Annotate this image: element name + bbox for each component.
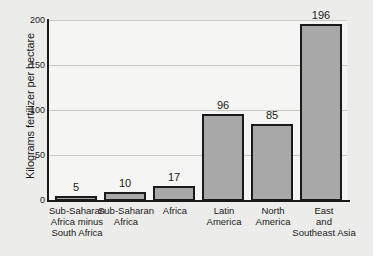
y-tick-200: 200 [15,16,45,25]
bar-value-1: 10 [104,178,146,189]
bar-group-0: 5 [55,20,97,201]
bar-value-5: 196 [300,10,342,21]
x-label-5: East and Southeast Asia [282,205,366,238]
bar-group-1: 10 [104,20,146,201]
bar-group-5: 196 [300,20,342,201]
bar-north-america[interactable] [251,124,293,201]
bar-chart: Kilograms fertilizer per hectare 200 150… [0,0,373,256]
bar-group-3: 96 [202,20,244,201]
y-tick-150: 150 [15,61,45,70]
bar-value-4: 85 [251,110,293,121]
x-axis-line [47,200,350,202]
bar-east-and-southeast-asia[interactable] [300,24,342,201]
plot-area: 5 10 17 96 85 196 [49,20,347,201]
bar-africa[interactable] [153,186,195,201]
bar-group-4: 85 [251,20,293,201]
y-tick-50: 50 [15,151,45,160]
bar-latin-america[interactable] [202,114,244,201]
bar-value-3: 96 [202,100,244,111]
y-axis-line [47,19,49,202]
y-tick-100: 100 [15,106,45,115]
bar-value-0: 5 [55,182,97,193]
y-tick-0: 0 [15,196,45,205]
bar-group-2: 17 [153,20,195,201]
bar-value-2: 17 [153,172,195,183]
